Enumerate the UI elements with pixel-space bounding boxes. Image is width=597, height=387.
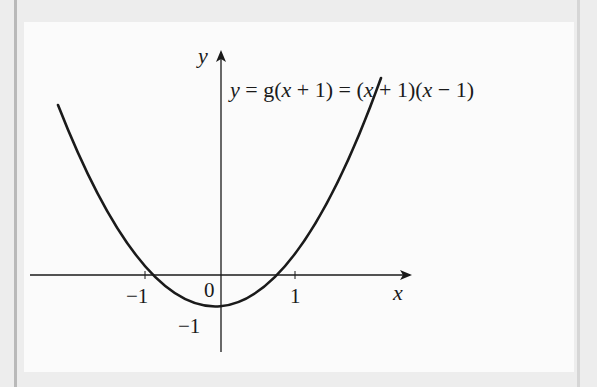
y-tick-label-neg1: −1 bbox=[178, 314, 200, 338]
x-tick-label-1: 1 bbox=[290, 284, 301, 308]
origin-label: 0 bbox=[204, 278, 215, 302]
x-axis-label: x bbox=[392, 280, 403, 305]
x-tick-label-neg1: −1 bbox=[126, 284, 148, 308]
graph: y x 0 −1 1 −1 y = g(x + 1) = (x + 1)(x −… bbox=[0, 0, 597, 387]
equation-label: y = g(x + 1) = (x + 1)(x − 1) bbox=[228, 77, 474, 102]
parabola-curve bbox=[58, 78, 381, 306]
y-axis-label: y bbox=[196, 43, 208, 68]
